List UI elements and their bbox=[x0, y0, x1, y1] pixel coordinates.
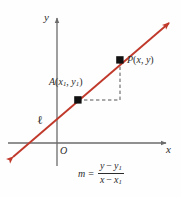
denominator-operator: − bbox=[104, 174, 114, 185]
origin-label: O bbox=[60, 146, 67, 156]
line-l bbox=[13, 23, 169, 157]
formula-lhs: m bbox=[78, 168, 85, 179]
numerator-term-b-sub: 1 bbox=[118, 164, 121, 171]
paren-close: ) bbox=[79, 76, 82, 87]
numerator-operator: − bbox=[104, 160, 114, 171]
formula-equals: = bbox=[88, 168, 94, 179]
denominator-term-b-sub: 1 bbox=[118, 178, 121, 185]
point-a-marker bbox=[74, 96, 81, 103]
formula-fraction: y−y1 x−x1 bbox=[98, 161, 124, 185]
point-p-marker bbox=[116, 56, 123, 63]
slope-formula: m = y−y1 x−x1 bbox=[78, 161, 124, 185]
slope-diagram-figure: y x O ℓ A(x1, y1) P(x, y) m = y−y1 x−x1 bbox=[0, 0, 181, 197]
formula-numerator: y−y1 bbox=[98, 161, 124, 173]
formula-denominator: x−x1 bbox=[98, 174, 124, 186]
y-axis-label: y bbox=[44, 12, 49, 23]
point-a-label: A(x1, y1) bbox=[49, 77, 83, 88]
x-axis-label: x bbox=[166, 144, 171, 155]
point-p-label: P(x, y) bbox=[127, 55, 154, 65]
line-l-label: ℓ bbox=[37, 114, 43, 126]
paren-close: ) bbox=[150, 54, 153, 65]
